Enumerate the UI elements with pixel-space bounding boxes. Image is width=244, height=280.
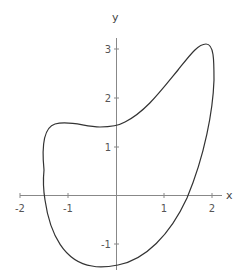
curve: [43, 44, 214, 267]
y-tick-label: 1: [105, 142, 111, 153]
x-axis-label: x: [226, 189, 233, 202]
y-tick-label: 2: [105, 93, 111, 104]
x-tick-label: -2: [15, 203, 25, 214]
x-tick-label: 2: [209, 203, 215, 214]
x-tick-label: -1: [63, 203, 73, 214]
y-tick-label: -1: [101, 239, 111, 250]
y-tick-label: 3: [105, 44, 111, 55]
y-axis-label: y: [112, 11, 119, 24]
x-tick-label: 1: [161, 203, 167, 214]
parametric-plot: -2 -1 1 2 -1 1 2 3 x y: [0, 0, 244, 280]
